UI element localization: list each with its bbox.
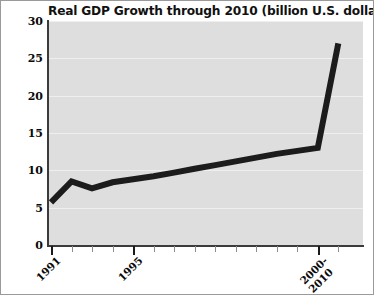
x-axis-tick: [133, 246, 135, 255]
chart-title: Real GDP Growth through 2010 (billion U.…: [48, 4, 373, 18]
x-axis-tick-label: 2000- 2010: [298, 255, 338, 295]
gridline: [48, 58, 363, 59]
y-axis-tick-label: 20: [13, 89, 43, 102]
x-axis-tick: [236, 246, 237, 252]
y-axis-tick-label: 0: [13, 239, 43, 252]
gridline: [48, 170, 363, 171]
y-axis-tick-label: 15: [13, 127, 43, 140]
y-axis-tick-label: 10: [13, 164, 43, 177]
x-axis-tick: [338, 246, 339, 252]
x-axis-tick: [113, 246, 114, 252]
x-axis-tick: [277, 246, 278, 252]
x-axis-tick: [92, 246, 93, 252]
x-axis-tick: [297, 246, 298, 252]
chart-figure: Real GDP Growth through 2010 (billion U.…: [0, 0, 374, 295]
x-axis-tick: [215, 246, 216, 252]
y-axis-tick-labels: 302520151050: [9, 1, 43, 295]
gridline: [48, 96, 363, 97]
gridline: [48, 133, 363, 134]
x-axis-tick: [174, 246, 175, 252]
x-axis-tick-label: 1995: [116, 255, 145, 284]
x-axis-tick: [72, 246, 73, 252]
x-axis-line: [47, 245, 364, 247]
gridline: [48, 208, 363, 209]
plot-area: [48, 21, 363, 245]
y-axis-line: [47, 20, 49, 246]
y-axis-tick-label: 25: [13, 52, 43, 65]
x-axis-tick: [51, 246, 53, 255]
x-axis-tick: [318, 246, 320, 255]
y-axis-tick-label: 5: [13, 201, 43, 214]
x-axis-tick: [154, 246, 155, 252]
gridline: [48, 21, 363, 22]
y-axis-tick-label: 30: [13, 15, 43, 28]
x-axis-tick: [195, 246, 196, 252]
x-axis-tick: [256, 246, 257, 252]
